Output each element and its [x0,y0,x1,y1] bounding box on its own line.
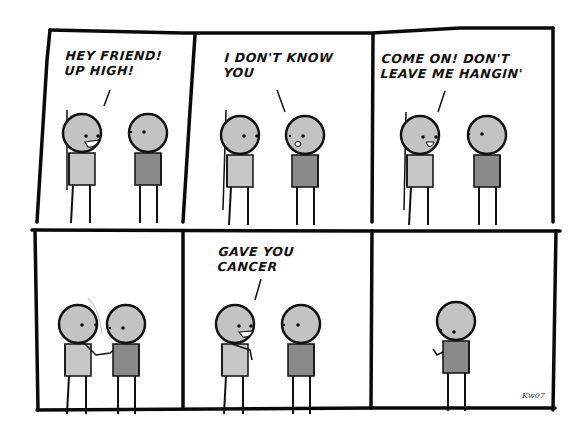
speech-text-panel-2: I DON'T KNOW YOU [223,50,334,80]
artist-signature: Kw07 [522,391,545,400]
panel-5 [216,279,320,414]
panel-2 [221,90,324,225]
panel-1 [63,90,167,223]
speech-text-panel-3: COME ON! DON'T LEAVE ME HANGIN' [380,51,525,81]
panel-3 [401,91,506,225]
panel-6 [433,302,475,411]
speech-text-panel-5: GAVE YOU CANCER [217,244,295,274]
speech-text-panel-1: HEY FRIEND! UP HIGH! [64,48,163,78]
panel-4 [59,298,145,414]
